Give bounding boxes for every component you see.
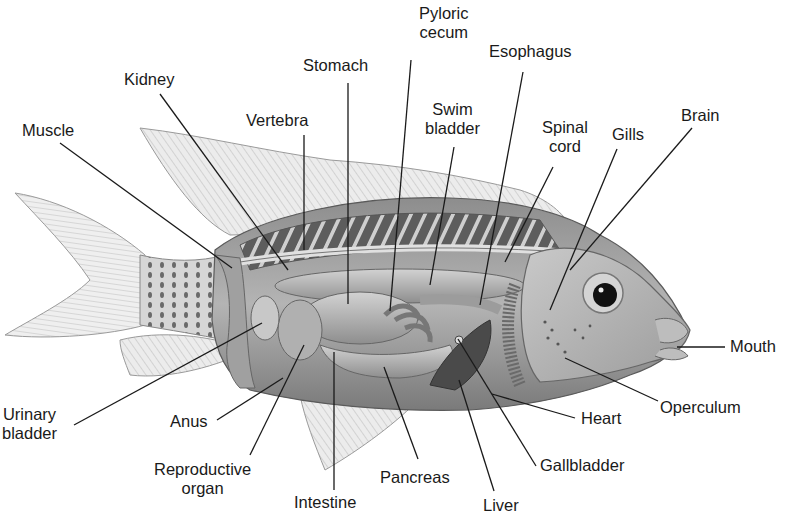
reproductive-organ-shape [278,300,322,360]
leader-line-brain [570,128,692,270]
label-gallbladder: Gallbladder [540,456,624,475]
label-spinal-cord: Spinal cord [542,118,588,156]
label-pancreas: Pancreas [380,468,450,487]
urinary-bladder-organ [251,296,279,340]
label-esophagus: Esophagus [489,42,572,61]
fish-anatomy-diagram: Pyloric cecum Esophagus Stomach Kidney V… [0,0,785,514]
fish-head [521,248,690,382]
label-gills: Gills [612,125,644,144]
label-anus: Anus [170,412,208,431]
label-vertebra: Vertebra [246,111,308,130]
label-brain: Brain [681,106,720,125]
label-liver: Liver [483,496,519,514]
fish-illustration [0,0,785,514]
label-swim-bladder: Swim bladder [425,100,480,138]
label-pyloric-cecum: Pyloric cecum [419,4,469,42]
label-kidney: Kidney [124,70,174,89]
caudal-peduncle [140,255,225,340]
label-mouth: Mouth [730,337,776,356]
caudal-fin [5,193,147,337]
swim-bladder-organ [275,269,525,303]
label-operculum: Operculum [660,398,741,417]
label-heart: Heart [581,409,621,428]
label-muscle: Muscle [22,121,74,140]
label-reproductive-organ: Reproductive organ [154,460,251,498]
label-intestine: Intestine [294,493,356,512]
label-urinary-bladder: Urinary bladder [2,405,57,443]
label-stomach: Stomach [303,56,368,75]
